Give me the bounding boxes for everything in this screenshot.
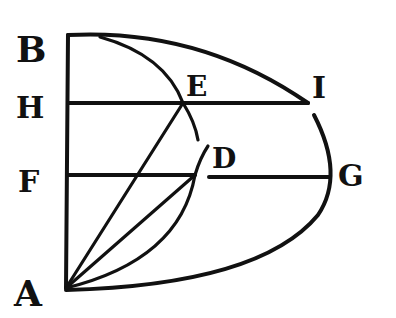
arc-B-through-E (100, 37, 198, 140)
line-A-to-E (66, 103, 183, 288)
diagram-figure: B H F A E I D G (0, 0, 396, 318)
arc-A-through-D (66, 146, 208, 288)
label-I: I (312, 70, 326, 105)
label-A: A (13, 272, 43, 314)
label-H: H (16, 90, 44, 125)
diagram-canvas: B H F A E I D G (0, 0, 396, 318)
label-F: F (18, 164, 39, 199)
label-D: D (212, 142, 236, 175)
line-A-to-D (66, 175, 195, 288)
line-BA (66, 35, 68, 288)
label-B: B (16, 28, 46, 70)
label-G: G (338, 158, 364, 193)
label-E: E (186, 70, 207, 103)
